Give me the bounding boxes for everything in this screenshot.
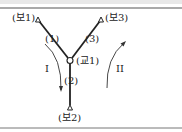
flow-2-label: II [116,64,124,74]
gyo1-label: (교1) [76,56,99,66]
bo2-label: (보2) [58,113,81,123]
bo3-triangle-icon [99,17,104,22]
top-cutoff-band [0,0,182,4]
segment-3-label: (3) [85,34,99,44]
bo3-label: (보3) [105,13,128,23]
segment-1-label: (1) [45,34,59,44]
gyo1-junction-icon [67,58,73,64]
bo2-triangle-icon [68,105,73,110]
segment-2-label: (2) [64,76,78,86]
network-diagram: (보1) (보3) (교1) (보2) (1) (3) (2) I II [0,0,182,132]
flow-1-arrowhead-icon [59,86,63,92]
flow-1-label: I [45,64,49,74]
bo1-triangle-icon [36,17,41,22]
bo1-label: (보1) [12,13,35,23]
